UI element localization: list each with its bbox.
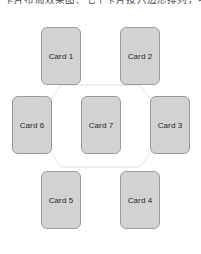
card-2[interactable]: Card 2 — [120, 27, 160, 85]
card-6-label: Card 6 — [20, 121, 45, 130]
card-1-label: Card 1 — [49, 52, 74, 61]
card-3-label: Card 3 — [158, 121, 183, 130]
card-4[interactable]: Card 4 — [120, 171, 160, 229]
card-6[interactable]: Card 6 — [12, 96, 52, 154]
card-5-label: Card 5 — [49, 196, 74, 205]
card-3[interactable]: Card 3 — [150, 96, 190, 154]
card-2-label: Card 2 — [128, 52, 153, 61]
card-1[interactable]: Card 1 — [41, 27, 81, 85]
card-4-label: Card 4 — [128, 196, 153, 205]
card-7[interactable]: Card 7 — [81, 96, 121, 154]
card-5[interactable]: Card 5 — [41, 171, 81, 229]
diagram-canvas: 卡片布局效果图：七个卡片按六边形排列，中间为第七张卡片 Card 1 Card … — [0, 0, 201, 254]
card-7-label: Card 7 — [89, 121, 114, 130]
